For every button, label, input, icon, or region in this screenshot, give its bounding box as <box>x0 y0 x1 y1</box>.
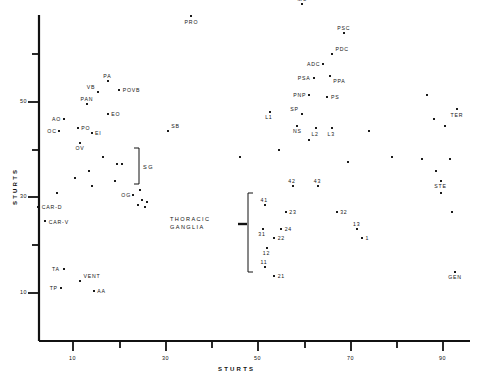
data-point <box>137 204 139 206</box>
data-point <box>456 108 458 110</box>
data-point <box>102 156 104 158</box>
data-point <box>56 192 58 194</box>
point-label: CAR-D <box>42 204 62 210</box>
data-point <box>301 113 303 115</box>
point-label: PS <box>331 94 340 100</box>
y-tick-label-50: 50 <box>20 98 27 104</box>
data-point <box>361 237 363 239</box>
data-point <box>315 127 317 129</box>
point-label: 41 <box>261 197 268 203</box>
point-label: 13 <box>353 221 360 227</box>
data-point <box>121 163 123 165</box>
point-label: 23 <box>289 209 296 215</box>
scatter-plot-figure: PROMUPSCPDCADCPPAPSAPNPPSPAVBPOVBPANEOAO… <box>0 0 478 376</box>
point-label: EI <box>95 130 102 136</box>
data-point <box>79 280 81 282</box>
point-label: 42 <box>288 178 295 184</box>
data-point <box>118 89 120 91</box>
data-point <box>273 237 275 239</box>
point-label: 22 <box>278 235 285 241</box>
point-label: POVB <box>123 87 141 93</box>
data-point <box>449 158 451 160</box>
point-label: OC <box>47 128 56 134</box>
point-label: CAR-V <box>49 219 69 225</box>
data-point <box>421 158 423 160</box>
plot-area: PROMUPSCPDCADCPPAPSAPNPPSPAVBPOVBPANEOAO… <box>0 0 478 376</box>
point-label: PDC <box>336 46 349 52</box>
data-point <box>93 290 95 292</box>
data-point <box>266 247 268 249</box>
point-label: PSC <box>337 25 350 31</box>
data-point <box>301 3 303 5</box>
data-point <box>440 180 442 182</box>
data-point <box>146 201 148 203</box>
data-point <box>435 170 437 172</box>
point-label: PO <box>81 125 90 131</box>
data-point <box>167 130 169 132</box>
data-point <box>264 204 266 206</box>
data-point <box>322 63 324 65</box>
point-label: EO <box>111 111 120 117</box>
point-label: SP <box>290 106 299 112</box>
data-point <box>107 80 109 82</box>
data-point <box>440 192 442 194</box>
data-point <box>91 132 93 134</box>
data-point <box>313 77 315 79</box>
point-label: 43 <box>314 178 321 184</box>
x-tick-label-90: 90 <box>439 355 446 361</box>
point-label: SB <box>171 123 180 129</box>
data-point <box>331 127 333 129</box>
y-tick-label-10: 10 <box>20 289 27 295</box>
point-label: 21 <box>278 273 285 279</box>
point-label: AA <box>97 288 106 294</box>
data-point <box>296 125 298 127</box>
data-point <box>239 156 241 158</box>
point-label: L3 <box>328 131 335 137</box>
data-point <box>285 211 287 213</box>
data-point <box>331 53 333 55</box>
data-point <box>58 130 60 132</box>
data-point <box>141 199 143 201</box>
data-point <box>391 156 393 158</box>
data-point <box>280 228 282 230</box>
point-label: TER <box>451 112 464 118</box>
data-point <box>91 185 93 187</box>
data-point <box>308 94 310 96</box>
x-axis-title: STURTS <box>218 366 255 372</box>
point-label: AO <box>52 116 61 122</box>
x-tick-label-10: 10 <box>69 355 76 361</box>
point-label: TP <box>50 285 58 291</box>
data-point <box>433 118 435 120</box>
data-point <box>88 170 90 172</box>
data-point <box>139 189 141 191</box>
data-point <box>86 103 88 105</box>
point-label: L2 <box>311 131 318 137</box>
data-point <box>37 206 39 208</box>
point-label: OG <box>121 192 131 198</box>
point-label: GEN <box>448 274 462 280</box>
data-point <box>454 271 456 273</box>
point-label: PA <box>103 73 111 79</box>
point-label: PPA <box>333 78 345 84</box>
data-point <box>336 211 338 213</box>
point-label: 24 <box>285 226 292 232</box>
data-point <box>132 194 134 196</box>
data-point <box>114 180 116 182</box>
data-point <box>326 96 328 98</box>
data-point <box>63 268 65 270</box>
point-label: PAN <box>81 96 94 102</box>
point-label: 31 <box>258 231 265 237</box>
data-point <box>278 149 280 151</box>
point-label: 11 <box>261 259 268 265</box>
data-point <box>317 185 319 187</box>
point-label: L1 <box>265 114 272 120</box>
data-point <box>63 118 65 120</box>
data-point <box>79 142 81 144</box>
point-label: PRO <box>185 19 199 25</box>
data-point <box>44 220 46 222</box>
annotation-sg: SG <box>143 163 154 171</box>
data-point <box>273 275 275 277</box>
data-point <box>116 163 118 165</box>
data-point <box>356 228 358 230</box>
x-tick-label-50: 50 <box>254 355 261 361</box>
